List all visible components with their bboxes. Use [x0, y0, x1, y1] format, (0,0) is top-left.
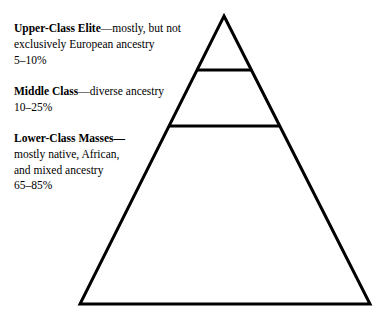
tier-dash-middle: — [78, 85, 90, 97]
tier-heading-lower: Lower-Class Masses [14, 132, 114, 144]
tier-label-line-1: Middle Class—diverse ancestry [14, 84, 164, 100]
tier-label-middle-class: Middle Class—diverse ancestry 10–25% [14, 84, 164, 116]
tier-dash-upper: — [101, 22, 113, 34]
pyramid-diagram-canvas: Upper-Class Elite—mostly, but not exclus… [0, 0, 384, 317]
tier-desc-lower-2: and mixed ancestry [14, 163, 125, 179]
tier-label-upper-class-elite: Upper-Class Elite—mostly, but not exclus… [14, 21, 181, 68]
tier-label-lower-class-masses: Lower-Class Masses— mostly native, Afric… [14, 131, 125, 194]
tier-desc-lower-1: mostly native, African, [14, 147, 125, 163]
tier-desc-upper-2: exclusively European ancestry [14, 37, 181, 53]
tier-desc-middle-1: diverse ancestry [90, 85, 164, 97]
tier-percent-middle: 10–25% [14, 100, 164, 116]
tier-heading-upper: Upper-Class Elite [14, 22, 101, 34]
tier-percent-lower: 65–85% [14, 178, 125, 194]
tier-dash-lower: — [114, 132, 126, 144]
tier-heading-middle: Middle Class [14, 85, 78, 97]
tier-label-line-1: Lower-Class Masses— [14, 131, 125, 147]
tier-desc-upper-1: mostly, but not [112, 22, 181, 34]
tier-percent-upper: 5–10% [14, 53, 181, 69]
tier-label-line-1: Upper-Class Elite—mostly, but not [14, 21, 181, 37]
